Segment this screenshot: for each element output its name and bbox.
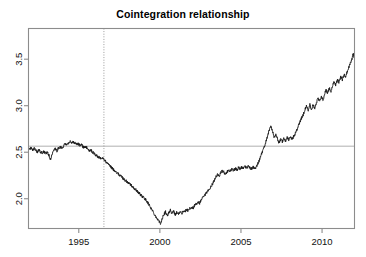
data-line-cointegration-residual (29, 53, 353, 224)
chart-figure: Cointegration relationship 1995200020052… (0, 0, 366, 257)
x-tick-label: 1995 (68, 236, 89, 247)
y-tick-label: 3.0 (13, 99, 24, 112)
x-tick-label: 2010 (311, 236, 332, 247)
plot-box (29, 29, 355, 229)
plot-area: 19952000200520102.02.53.03.5 (0, 0, 366, 257)
x-tick-label: 2000 (149, 236, 170, 247)
x-tick-label: 2005 (230, 236, 251, 247)
y-tick-label: 2.5 (13, 146, 24, 159)
y-tick-label: 2.0 (13, 192, 24, 205)
y-tick-label: 3.5 (13, 53, 24, 66)
